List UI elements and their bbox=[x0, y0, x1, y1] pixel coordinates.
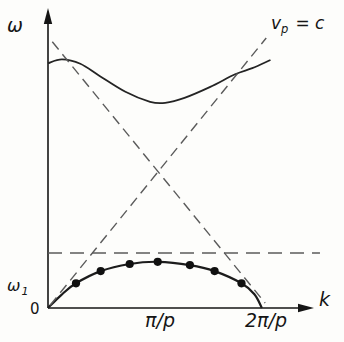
phase-velocity-base: v bbox=[271, 13, 281, 33]
data-point-dot bbox=[97, 267, 105, 275]
x-axis-arrowhead bbox=[298, 304, 314, 312]
y-axis-arrowhead bbox=[44, 8, 52, 24]
phase-velocity-rest: = c bbox=[295, 13, 324, 33]
origin-tick-label: 0 bbox=[30, 302, 40, 317]
series-layer bbox=[48, 38, 320, 308]
phase-velocity-sub: p bbox=[281, 22, 288, 36]
dispersion-diagram-figure: ω ω1 0 π/p 2π/p k vp= c bbox=[0, 0, 344, 342]
y-axis-label: ω bbox=[7, 16, 23, 35]
plot-canvas bbox=[0, 0, 344, 342]
data-point-dot bbox=[186, 261, 194, 269]
series-second-passband bbox=[48, 59, 271, 103]
y-tick-label-omega1-base: ω bbox=[7, 276, 20, 295]
phase-velocity-annotation: vp= c bbox=[271, 15, 324, 32]
y-tick-label-omega1: ω1 bbox=[7, 278, 27, 294]
data-point-dot bbox=[72, 279, 80, 287]
data-point-dot bbox=[211, 267, 219, 275]
data-point-dot bbox=[154, 258, 162, 266]
x-axis-label: k bbox=[319, 290, 330, 309]
x-tick-label-pi-over-p: π/p bbox=[132, 311, 188, 330]
series-first-passband bbox=[48, 262, 262, 308]
data-point-dot bbox=[126, 260, 134, 268]
data-point-dot bbox=[237, 279, 245, 287]
y-tick-label-omega1-sub: 1 bbox=[21, 285, 28, 298]
x-tick-label-2pi-over-p: 2π/p bbox=[238, 311, 294, 330]
